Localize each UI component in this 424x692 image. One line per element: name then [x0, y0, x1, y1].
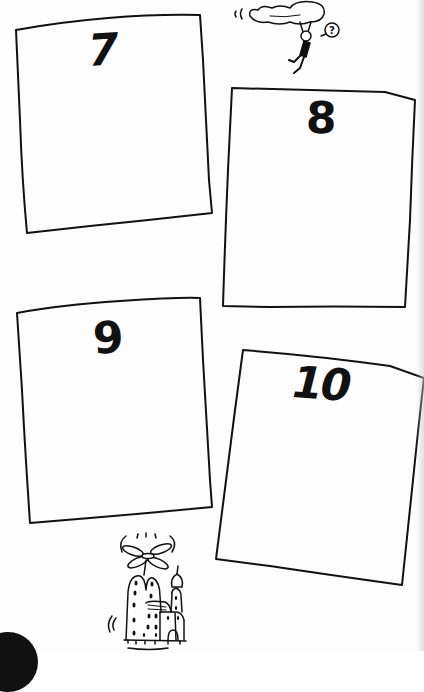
panel-8-number: 8	[305, 95, 337, 140]
panel-9-number: 9	[92, 315, 125, 361]
person-hanging-from-cloud-icon: ?	[235, 2, 339, 73]
flying-building-helicopter-icon	[108, 533, 186, 650]
panel-10-number: 10	[287, 360, 355, 407]
speech-bubble-text: ?	[329, 25, 335, 36]
book-gutter-shadow	[416, 0, 424, 651]
